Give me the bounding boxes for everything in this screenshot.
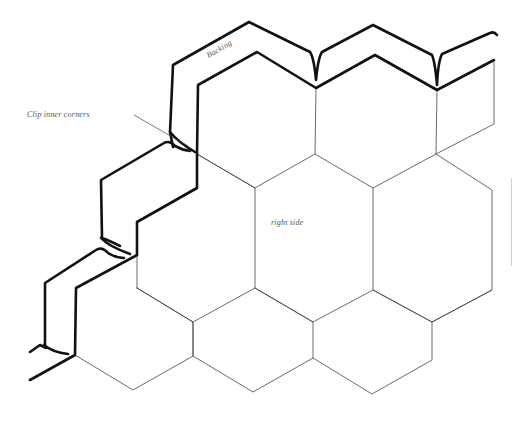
right-side-label: right side [271,218,303,227]
backing-edge [30,22,497,354]
hex-row2-col2 [255,188,373,322]
hex-row3-col1 [75,322,193,390]
diagram-canvas: Backing Clip inner corners right side [0,0,524,422]
clip-leader-line [134,115,188,146]
hexagon-diagram-svg [0,0,524,422]
hex-row2-col3 [373,154,492,322]
hex-row1-col1 [197,88,316,188]
clip-inner-corners-label: Clip inner corners [27,110,90,119]
hex-row3-col2 [193,322,313,392]
hex-row1-col2 [315,90,437,188]
hex-row1-col3 [436,124,494,154]
hex-outer-edge [30,52,494,380]
hex-row2-col1 [137,188,255,322]
page-edge-mark [511,178,515,266]
